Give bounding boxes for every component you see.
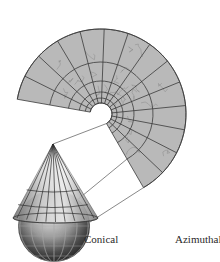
azimuthal-label: Azimuthal (175, 233, 220, 245)
conical-label: Conical (84, 233, 118, 245)
projection-diagram: Conical Azimuthal (0, 0, 220, 262)
conical-projection-illustration (0, 0, 220, 262)
